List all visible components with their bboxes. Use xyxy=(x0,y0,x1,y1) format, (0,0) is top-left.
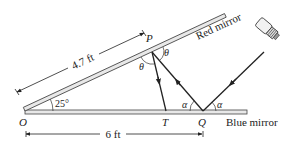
point-T-label: T xyxy=(162,116,169,128)
angle-arc-25 xyxy=(50,99,53,111)
flashlight-icon xyxy=(255,17,281,41)
length-OP-label: 4.7 ft xyxy=(70,51,96,72)
point-P-label: P xyxy=(145,32,153,44)
length-OQ-label: 6 ft xyxy=(106,128,121,140)
red-mirror xyxy=(23,14,226,111)
point-Q-label: Q xyxy=(198,116,206,128)
point-O-label: O xyxy=(19,116,27,128)
alpha-left-label: α xyxy=(182,99,188,110)
alpha-arc-left xyxy=(190,101,194,111)
blue-mirror-label: Blue mirror xyxy=(226,116,278,128)
theta-right-label: θ xyxy=(164,47,169,58)
theta-left-label: θ xyxy=(139,61,144,72)
alpha-right-label: α xyxy=(217,99,223,110)
blue-mirror xyxy=(25,110,247,114)
mirror-diagram: 4.7 ft 6 ft O P T Q 25° θ θ α α Red mirr… xyxy=(0,0,293,146)
angle-25-label: 25° xyxy=(55,98,69,109)
